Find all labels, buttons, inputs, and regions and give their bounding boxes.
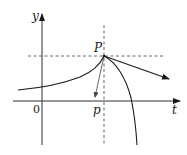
point-p [103, 55, 106, 58]
left-tangent-arrow [95, 56, 104, 97]
point-label: P [93, 41, 103, 55]
left-curve [18, 56, 104, 90]
tangent-arrow [104, 56, 169, 79]
y-axis-label: y [31, 9, 39, 23]
t-axis-label: t [172, 103, 177, 117]
right-curve [104, 56, 137, 145]
diagram-canvas: y P 0 p t [0, 0, 187, 155]
x-tick-label: p [93, 103, 101, 117]
origin-label: 0 [33, 103, 40, 116]
